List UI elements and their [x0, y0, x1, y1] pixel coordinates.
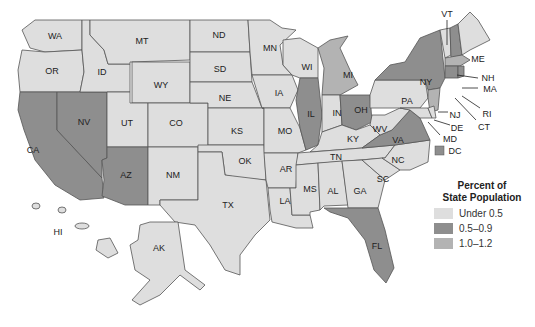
state-dc-marker: [435, 146, 444, 155]
label-co: CO: [169, 118, 183, 128]
label-tn: TN: [330, 152, 342, 162]
label-in: IN: [333, 108, 342, 118]
label-al: AL: [327, 186, 338, 196]
label-nd: ND: [213, 30, 226, 40]
state-ma: [445, 55, 470, 66]
label-mn: MN: [263, 43, 277, 53]
state-ak: [130, 222, 205, 305]
label-ky: KY: [347, 134, 359, 144]
label-ms: MS: [303, 184, 317, 194]
state-hi-island: [32, 203, 40, 209]
label-oh: OH: [354, 105, 368, 115]
state-me: [458, 12, 490, 55]
label-vt: VT: [441, 9, 453, 19]
label-il: IL: [307, 109, 315, 119]
state-hi-island: [58, 207, 66, 213]
label-ma: MA: [483, 84, 497, 94]
label-sd: SD: [214, 64, 227, 74]
label-mt: MT: [136, 36, 149, 46]
legend-swatch-dark: [434, 223, 453, 234]
legend-title-line1: Percent of: [432, 180, 532, 192]
legend-label: 0.5–0.9: [459, 223, 492, 234]
label-dc: DC: [449, 146, 462, 156]
label-la: LA: [279, 196, 290, 206]
state-mi: [318, 36, 358, 95]
label-ak: AK: [153, 243, 165, 253]
label-mo: MO: [278, 126, 293, 136]
legend-label: 1.0–1.2: [459, 238, 492, 249]
label-nc: NC: [392, 155, 405, 165]
legend: Percent of State Population Under 0.5 0.…: [432, 180, 532, 249]
label-ca: CA: [27, 145, 40, 155]
label-wv: WV: [373, 124, 388, 134]
label-sc: SC: [377, 174, 390, 184]
label-ut: UT: [121, 118, 133, 128]
legend-swatch-light: [434, 208, 453, 219]
label-fl: FL: [372, 241, 383, 251]
label-ne: NE: [219, 93, 232, 103]
label-ny: NY: [420, 77, 433, 87]
legend-item-1-0-1-2: 1.0–1.2: [434, 238, 532, 249]
label-md: MD: [443, 134, 457, 144]
label-wa: WA: [48, 31, 62, 41]
label-mi: MI: [343, 70, 353, 80]
label-me: ME: [471, 54, 485, 64]
label-pa: PA: [401, 96, 412, 106]
leader-de: [434, 120, 450, 125]
state-fl: [324, 208, 394, 283]
legend-item-0-5-0-9: 0.5–0.9: [434, 223, 532, 234]
legend-title-line2: State Population: [432, 192, 532, 204]
label-ok: OK: [238, 156, 251, 166]
legend-swatch-medium: [434, 238, 453, 249]
label-wi: WI: [302, 62, 313, 72]
label-hi: HI: [54, 227, 63, 237]
legend-label: Under 0.5: [459, 208, 503, 219]
label-ks: KS: [231, 126, 243, 136]
label-ga: GA: [353, 186, 366, 196]
state-ct: [445, 66, 458, 78]
label-ar: AR: [280, 164, 293, 174]
label-nh: NH: [482, 73, 495, 83]
label-ri: RI: [483, 109, 492, 119]
leader-ri: [462, 96, 480, 108]
label-ct: CT: [478, 122, 490, 132]
legend-title: Percent of State Population: [432, 180, 532, 204]
state-hi-island: [75, 223, 89, 229]
leader-md: [428, 122, 440, 135]
label-nm: NM: [166, 170, 180, 180]
label-az: AZ: [120, 170, 132, 180]
label-de: DE: [451, 123, 464, 133]
label-nv: NV: [78, 117, 91, 127]
legend-item-under-0-5: Under 0.5: [434, 208, 532, 219]
label-tx: TX: [222, 200, 234, 210]
label-nj: NJ: [450, 110, 461, 120]
label-ia: IA: [275, 88, 284, 98]
label-id: ID: [98, 67, 108, 77]
label-or: OR: [45, 66, 59, 76]
label-wy: WY: [154, 80, 169, 90]
us-map: WA OR CA NV ID MT WY UT AZ CO NM ND SD N…: [0, 0, 535, 327]
state-hi: [96, 238, 118, 258]
label-va: VA: [392, 135, 403, 145]
